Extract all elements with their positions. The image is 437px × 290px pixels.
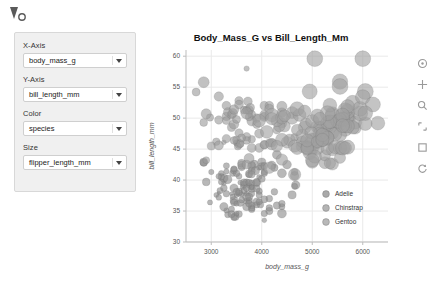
svg-text:60: 60 [173,52,181,59]
app-root: X-Axis body_mass_g Y-Axis bill_length_mm… [0,0,437,290]
chevron-down-icon [116,93,122,97]
color-value: species [29,124,54,133]
svg-text:bill_length_mm: bill_length_mm [148,122,156,169]
zoom-in-icon[interactable] [415,98,429,112]
reset-axes-icon[interactable] [415,140,429,154]
control-label-x-axis: X-Axis [23,41,127,50]
x-axis-select[interactable]: body_mass_g [23,53,127,68]
plotly-logo-icon [8,4,42,24]
svg-text:3000: 3000 [204,248,219,255]
control-color: Color species [23,109,127,136]
select-divider [112,56,113,65]
pan-zoom-icon[interactable] [415,77,429,91]
svg-text:body_mass_g: body_mass_g [265,263,309,271]
select-divider [112,90,113,99]
control-y-axis: Y-Axis bill_length_mm [23,75,127,102]
camera-icon[interactable] [415,56,429,70]
svg-text:Adelie: Adelie [335,190,353,197]
chevron-down-icon [116,161,122,165]
svg-text:55: 55 [173,83,181,90]
control-size: Size flipper_length_mm [23,143,127,170]
select-divider [112,158,113,167]
svg-text:4000: 4000 [255,248,270,255]
chevron-down-icon [116,127,122,131]
plot-toolbar [413,56,431,175]
svg-text:40: 40 [173,176,181,183]
plot-svg[interactable]: 300040005000600030354045505560body_mass_… [140,26,402,282]
y-axis-value: bill_length_mm [29,90,79,99]
svg-text:35: 35 [173,207,181,214]
control-x-axis: X-Axis body_mass_g [23,41,127,68]
controls-panel: X-Axis body_mass_g Y-Axis bill_length_mm… [14,32,136,192]
scatter-chart: Body_Mass_G vs Bill_Length_Mm 3000400050… [140,26,402,282]
size-value: flipper_length_mm [29,158,91,167]
control-label-size: Size [23,143,127,152]
select-divider [112,124,113,133]
chevron-down-icon [116,59,122,63]
size-select[interactable]: flipper_length_mm [23,155,127,170]
svg-text:45: 45 [173,145,181,152]
color-select[interactable]: species [23,121,127,136]
control-label-y-axis: Y-Axis [23,75,127,84]
refresh-icon[interactable] [415,161,429,175]
svg-text:50: 50 [173,114,181,121]
svg-text:Gentoo: Gentoo [335,218,357,225]
svg-text:6000: 6000 [356,248,371,255]
svg-text:30: 30 [173,238,181,245]
x-axis-value: body_mass_g [29,56,76,65]
y-axis-select[interactable]: bill_length_mm [23,87,127,102]
control-label-color: Color [23,109,127,118]
svg-text:Chinstrap: Chinstrap [335,204,363,212]
svg-text:5000: 5000 [305,248,320,255]
autoscale-icon[interactable] [415,119,429,133]
